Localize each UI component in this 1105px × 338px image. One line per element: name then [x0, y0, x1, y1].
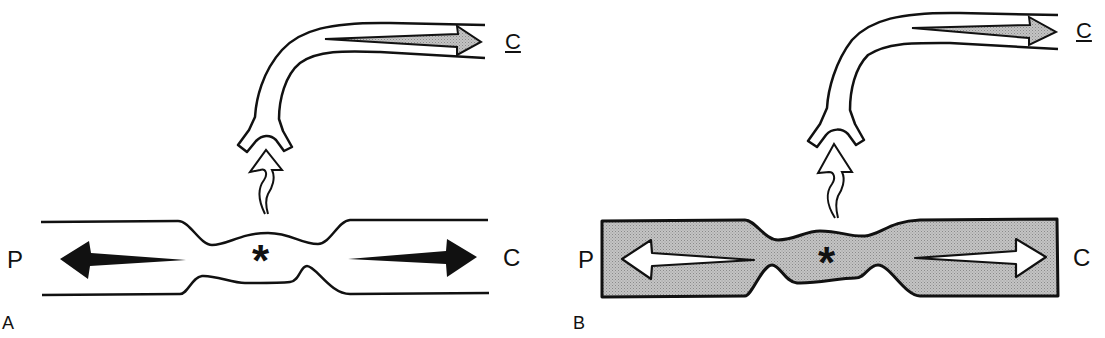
label-p-b: P	[578, 246, 594, 274]
diagram-canvas	[0, 0, 1105, 338]
label-branch-c-b: C	[1076, 18, 1092, 44]
asterisk-b: *	[818, 238, 835, 288]
panel-label-a: A	[2, 313, 14, 334]
asterisk-a: *	[252, 236, 269, 286]
label-p-a: P	[7, 246, 23, 274]
wavy-arrow-b	[818, 144, 852, 218]
panel-label-b: B	[573, 313, 585, 334]
arrow-right-solid	[348, 239, 477, 277]
diagram: P C C * A P C C * B	[0, 0, 1105, 338]
wavy-arrow-a	[250, 150, 282, 214]
label-c-a: C	[503, 244, 520, 272]
label-c-b: C	[1073, 244, 1090, 272]
label-branch-c-a: C	[505, 29, 521, 55]
arrow-left-solid	[60, 241, 186, 279]
